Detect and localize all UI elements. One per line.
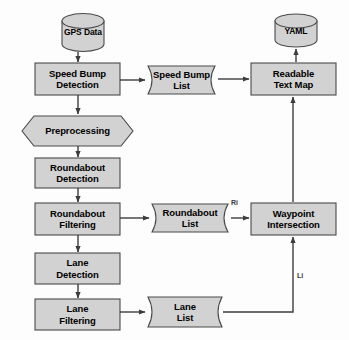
node-speed-bump-detection[interactable] xyxy=(35,63,120,95)
node-roundabout-filtering[interactable] xyxy=(35,203,120,235)
edge-lanelist-to-waypoint xyxy=(223,237,293,312)
node-roundabout-detection[interactable] xyxy=(35,158,120,188)
node-lane-detection[interactable] xyxy=(35,253,120,284)
node-lane-list[interactable] xyxy=(148,297,222,327)
node-lane-filtering[interactable] xyxy=(35,299,120,330)
node-roundabout-list[interactable] xyxy=(152,204,228,232)
node-gps-data[interactable] xyxy=(62,14,104,52)
node-yaml[interactable] xyxy=(275,14,317,47)
flowchart-canvas: GPS Data YAML Speed Bump Detection Speed… xyxy=(0,0,349,340)
edge-label-ri: Ri xyxy=(231,199,238,207)
node-waypoint-intersection[interactable] xyxy=(251,203,336,235)
node-speed-bump-list[interactable] xyxy=(148,66,215,94)
edge-label-li: Li xyxy=(297,272,303,280)
node-readable-text-map[interactable] xyxy=(251,63,336,95)
flowchart-svg xyxy=(0,0,349,340)
node-preprocessing[interactable] xyxy=(22,116,133,146)
